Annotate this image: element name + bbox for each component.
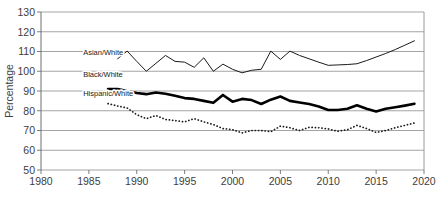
x-axis-tick-label: 1980 xyxy=(29,175,53,187)
chart-footnote xyxy=(28,190,438,199)
x-axis-tick-label: 1985 xyxy=(77,175,101,187)
series-line-asian-white xyxy=(118,41,415,73)
x-axis-tick-label: 1990 xyxy=(125,175,149,187)
x-axis-tick-label: 2020 xyxy=(412,175,436,187)
chart-container: 5060708090100110120130198019851990199520… xyxy=(0,0,445,199)
series-line-black-white xyxy=(108,89,414,112)
series-label-black-white: Black/White xyxy=(83,70,123,79)
y-axis-tick-label: 130 xyxy=(17,6,35,18)
x-axis-tick-label: 2005 xyxy=(269,175,293,187)
y-axis-tick-label: 90 xyxy=(23,85,35,97)
x-axis-tick-label: 2000 xyxy=(221,175,245,187)
y-axis-tick-label: 110 xyxy=(18,45,35,57)
y-axis-title: Percentage xyxy=(3,64,15,118)
series-label-hispanic-white: Hispanic/White xyxy=(83,89,133,98)
line-chart: 5060708090100110120130198019851990199520… xyxy=(0,0,445,199)
y-axis-tick-label: 120 xyxy=(17,26,35,38)
y-axis-tick-label: 100 xyxy=(17,65,35,77)
y-axis-tick-label: 60 xyxy=(23,144,35,156)
x-axis-tick-label: 2015 xyxy=(364,175,388,187)
y-axis-tick-label: 70 xyxy=(23,124,35,136)
x-axis-tick-label: 2010 xyxy=(317,175,341,187)
x-axis-tick-label: 1995 xyxy=(173,175,197,187)
y-axis-tick-label: 80 xyxy=(23,105,35,117)
y-axis-tick-label: 50 xyxy=(23,164,35,176)
series-label-asian-white: Asian/White xyxy=(83,48,123,57)
